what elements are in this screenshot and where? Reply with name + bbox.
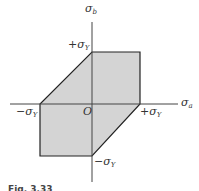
label-text: +σ [140,105,157,118]
label-pos-sigma-y-vertical: +σY [68,38,89,52]
label-pos-sigma-y-horizontal: +σY [140,105,161,119]
label-text: +σ [68,38,85,51]
figure-caption: Fig. 3.33 [8,184,52,191]
horizontal-axis-label: σa [181,96,193,110]
axis-subscript: b [93,8,97,16]
axis-symbol: σ [181,96,189,109]
label-neg-sigma-y-horizontal: −σY [16,105,37,119]
axis-symbol: σ [85,2,93,15]
axis-subscript: a [189,102,193,110]
label-neg-sigma-y-vertical: −σY [94,155,115,169]
yield-diagram: σb σa O +σY −σY +σY −σY Fig. 3.33 [0,0,199,191]
label-subscript: Y [111,161,116,169]
label-subscript: Y [33,111,38,119]
origin-label: O [83,105,92,118]
label-subscript: Y [85,44,90,52]
label-text: −σ [16,105,33,118]
label-text: −σ [94,155,111,168]
vertical-axis-label: σb [85,2,97,16]
label-subscript: Y [157,111,162,119]
